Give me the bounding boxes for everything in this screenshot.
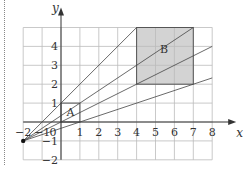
y-tick-label: 3: [51, 59, 58, 72]
x-tick-label: 1: [76, 126, 83, 139]
x-axis-arrow-icon: [228, 119, 236, 125]
x-tick-label: 7: [190, 126, 197, 139]
coordinate-plane: −2−1012345678−2−11234xyAB: [0, 0, 243, 179]
x-tick-label: 5: [152, 126, 159, 139]
x-tick-label: 4: [133, 126, 140, 139]
x-tick-label: −2: [15, 126, 31, 139]
y-tick-label: −1: [42, 135, 58, 148]
x-tick-label: 6: [171, 126, 178, 139]
x-tick-label: 8: [209, 126, 216, 139]
shape-b-label: B: [160, 43, 168, 56]
y-tick-label: 4: [51, 40, 58, 53]
center-of-enlargement-point: [21, 139, 25, 143]
y-tick-label: 1: [51, 97, 58, 110]
x-tick-label: 2: [95, 126, 102, 139]
x-axis-label: x: [236, 126, 243, 140]
y-tick-label: 2: [51, 78, 58, 91]
shape-a-label: A: [65, 106, 75, 119]
y-tick-label: −2: [42, 154, 58, 167]
x-tick-label: 3: [114, 126, 121, 139]
y-axis-label: y: [51, 1, 59, 15]
y-axis-arrow-icon: [58, 8, 64, 16]
